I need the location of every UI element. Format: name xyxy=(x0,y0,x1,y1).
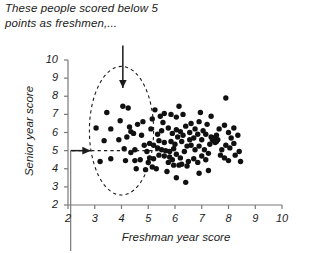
x-axis-title: Freshman year score xyxy=(68,231,284,243)
x-tick-label: 2 xyxy=(59,212,77,224)
y-tick-label: 9 xyxy=(42,71,58,83)
x-tick-label: 4 xyxy=(113,212,131,224)
x-tick-label: 10 xyxy=(273,212,291,224)
data-points xyxy=(93,95,243,185)
y-tick-label: 7 xyxy=(42,107,58,119)
y-tick-label: 5 xyxy=(42,144,58,156)
y-tick-label: 10 xyxy=(42,53,58,65)
y-tick-label: 8 xyxy=(42,89,58,101)
x-tick-label: 5 xyxy=(139,212,157,224)
y-tick-label: 4 xyxy=(42,162,58,174)
x-tick-label: 3 xyxy=(86,212,104,224)
x-tick-label: 8 xyxy=(220,212,238,224)
x-tick-label: 7 xyxy=(193,212,211,224)
y-tick-label: 3 xyxy=(42,180,58,192)
x-tick-label: 6 xyxy=(166,212,184,224)
y-tick-label: 2 xyxy=(42,198,58,210)
y-axis-title: Senior year score xyxy=(23,61,35,201)
x-tick-label: 9 xyxy=(246,212,264,224)
scatter-plot-figure: These people scored below 5 points as fr… xyxy=(0,0,310,253)
y-tick-label: 6 xyxy=(42,126,58,138)
